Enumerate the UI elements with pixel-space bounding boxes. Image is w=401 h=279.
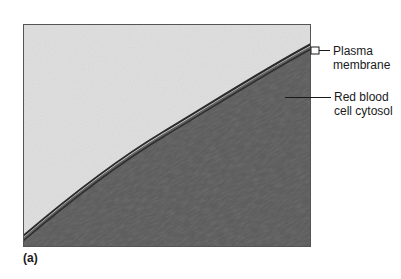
label-plasma-membrane: Plasma membrane xyxy=(333,44,390,72)
panel-label: (a) xyxy=(23,251,38,265)
membrane-bracket xyxy=(311,47,319,54)
label-line-2: cell cytosol xyxy=(334,104,393,118)
label-red-blood-cell-cytosol: Red blood cell cytosol xyxy=(334,90,393,118)
label-line-1: Red blood xyxy=(334,90,393,104)
label-line-1: Plasma xyxy=(333,44,390,58)
label-line-2: membrane xyxy=(333,58,390,72)
figure: Plasma membrane Red blood cell cytosol (… xyxy=(0,0,401,279)
electron-micrograph xyxy=(23,24,311,247)
